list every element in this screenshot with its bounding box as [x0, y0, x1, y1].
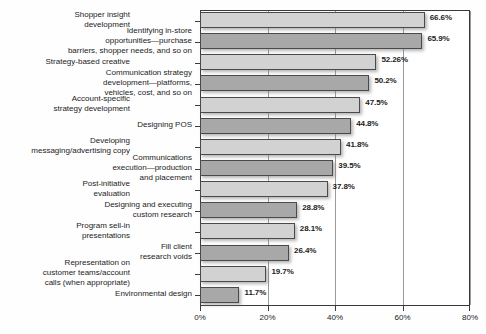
x-axis-tick-label: 80%	[462, 313, 478, 322]
x-axis-tick-label: 0%	[194, 313, 206, 322]
category-label: Representation on customer teams/account…	[0, 258, 130, 288]
bar	[200, 12, 425, 28]
bar-row: 28.1%	[200, 221, 470, 242]
bar-value-label: 50.2%	[374, 76, 396, 85]
gridline-80pct	[470, 11, 471, 305]
x-axis-tick	[200, 306, 201, 311]
bar	[200, 223, 295, 239]
bar-row: 39.5%	[200, 158, 470, 179]
bar-value-label: 41.8%	[346, 140, 368, 149]
bars-group: 66.6%65.9%52.26%50.2%47.5%44.8%41.8%39.5…	[200, 10, 470, 306]
bar	[200, 181, 328, 197]
bar	[200, 287, 239, 303]
bar	[200, 266, 266, 282]
bar-value-label: 26.4%	[294, 246, 316, 255]
bar-row: 65.9%	[200, 31, 470, 52]
bar-value-label: 66.6%	[430, 13, 452, 22]
bar-value-label: 47.5%	[365, 98, 387, 107]
category-label: Designing POS	[42, 120, 192, 130]
x-axis-tick-label: 60%	[394, 313, 410, 322]
bar-value-label: 11.7%	[244, 288, 266, 297]
x-axis-tick	[268, 306, 269, 311]
bar-value-label: 39.5%	[338, 161, 360, 170]
bar	[200, 245, 289, 261]
x-axis-tick	[469, 306, 470, 311]
category-label: Program sell-in presentations	[0, 221, 130, 241]
category-label: Account-specific strategy development	[0, 94, 130, 114]
bar	[200, 160, 333, 176]
bar-row: 66.6%	[200, 10, 470, 31]
category-labels-group: Shopper insight developmentIdentifying i…	[0, 10, 200, 306]
bar	[200, 33, 422, 49]
bar-row: 26.4%	[200, 243, 470, 264]
bar-row: 52.26%	[200, 52, 470, 73]
bar-row: 41.8%	[200, 137, 470, 158]
bar-row: 28.8%	[200, 200, 470, 221]
x-axis-tick-label: 20%	[259, 313, 275, 322]
bar	[200, 202, 297, 218]
x-axis-tick	[403, 306, 404, 311]
bar-row: 44.8%	[200, 116, 470, 137]
bar	[200, 97, 360, 113]
bar-value-label: 28.1%	[300, 224, 322, 233]
category-label: Designing and executing custom research	[42, 200, 192, 220]
bar-value-label: 37.8%	[333, 182, 355, 191]
bar-row: 37.8%	[200, 179, 470, 200]
category-label: Identifying in-store opportunities—purch…	[42, 26, 192, 56]
bar-value-label: 65.9%	[427, 34, 449, 43]
bar-row: 50.2%	[200, 73, 470, 94]
bar	[200, 54, 376, 70]
bar	[200, 75, 369, 91]
category-label: Strategy-based creative	[0, 57, 130, 67]
bar-value-label: 19.7%	[271, 267, 293, 276]
bar-value-label: 52.26%	[381, 55, 408, 64]
category-label: Environmental design	[42, 289, 192, 299]
x-axis-tick-label: 40%	[327, 313, 343, 322]
bar-row: 19.7%	[200, 264, 470, 285]
bar-value-label: 28.8%	[302, 203, 324, 212]
bar-value-label: 44.8%	[356, 119, 378, 128]
bar	[200, 118, 351, 134]
bar	[200, 139, 341, 155]
x-axis-tick	[335, 306, 336, 311]
category-label: Post-initiative evaluation	[0, 179, 130, 199]
bar-row: 47.5%	[200, 95, 470, 116]
x-axis: 0%20%40%60%80%	[200, 306, 470, 328]
bar-chart-figure: 66.6%65.9%52.26%50.2%47.5%44.8%41.8%39.5…	[0, 0, 486, 334]
bar-row: 11.7%	[200, 285, 470, 306]
